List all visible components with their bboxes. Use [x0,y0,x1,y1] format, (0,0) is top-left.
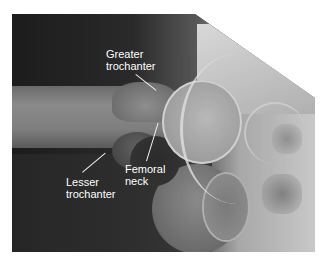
label-line: Greater [106,48,156,60]
label-line: neck [125,175,165,187]
acetabular-rim [180,54,293,204]
hip-xray-image [12,14,315,252]
label-line: trochanter [66,188,116,200]
label-lesser-trochanter: Lesser trochanter [66,176,116,200]
label-femoral-neck: Femoral neck [125,163,165,187]
label-line: Femoral [125,163,165,175]
label-line: trochanter [106,60,156,72]
label-greater-trochanter: Greater trochanter [106,48,156,72]
label-line: Lesser [66,176,116,188]
